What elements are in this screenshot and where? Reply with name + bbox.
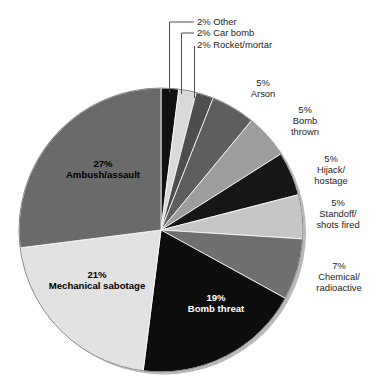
callout-chemical: 7% Chemical/ radioactive (303, 260, 375, 294)
callout-arson-percent: 5% (232, 77, 294, 88)
callout-hijack-name-2: hostage (300, 175, 362, 186)
callout-other-text: 2% Other (197, 16, 237, 27)
callout-rocket-mortar: 2% Rocket/mortar (197, 39, 272, 50)
callout-arson: 5% Arson (232, 77, 294, 99)
callout-other: 2% Other (197, 16, 237, 27)
slice-label-bomb-threat-percent: 19% (168, 292, 264, 303)
slice-label-mechanical-sabotage: 21% Mechanical sabotage (17, 269, 177, 292)
callout-chemical-percent: 7% (303, 260, 375, 271)
leader-line-car-bomb (182, 33, 195, 94)
callout-bomb-thrown: 5% Bomb thrown (272, 104, 338, 138)
callout-chemical-name-2: radioactive (303, 282, 375, 293)
slice-label-bomb-threat-name: Bomb threat (168, 303, 264, 314)
pie-chart-canvas (0, 0, 378, 392)
callout-bomb-thrown-percent: 5% (272, 104, 338, 115)
pie-slices (19, 88, 303, 372)
callout-chemical-name-1: Chemical/ (303, 271, 375, 282)
callout-hijack-hostage: 5% Hijack/ hostage (300, 153, 362, 187)
pie-chart-figure: 2% Other 2% Car bomb 2% Rocket/mortar 5%… (0, 0, 378, 392)
callout-hijack-percent: 5% (300, 153, 362, 164)
callout-car-bomb: 2% Car bomb (197, 27, 254, 38)
slice-label-mechanical-percent: 21% (17, 269, 177, 280)
callout-arson-name: Arson (232, 88, 294, 99)
callout-car-bomb-text: 2% Car bomb (197, 27, 254, 38)
callout-rocket-mortar-text: 2% Rocket/mortar (197, 39, 272, 50)
slice-label-mechanical-name: Mechanical sabotage (17, 280, 177, 291)
callout-standoff-name-2: shots fired (303, 219, 373, 230)
callout-bomb-thrown-name-2: thrown (272, 126, 338, 137)
callout-standoff-name-1: Standoff/ (303, 208, 373, 219)
pie-slice-mechanical-sabotage[interactable] (20, 230, 161, 371)
slice-label-ambush-assault: 27% Ambush/assault (28, 158, 178, 181)
slice-label-ambush-percent: 27% (28, 158, 178, 169)
callout-bomb-thrown-name-1: Bomb (272, 115, 338, 126)
leader-lines (170, 22, 195, 98)
slice-label-ambush-name: Ambush/assault (28, 169, 178, 180)
callout-standoff-percent: 5% (303, 197, 373, 208)
callout-standoff: 5% Standoff/ shots fired (303, 197, 373, 231)
slice-label-bomb-threat: 19% Bomb threat (168, 292, 264, 315)
callout-hijack-name-1: Hijack/ (300, 164, 362, 175)
